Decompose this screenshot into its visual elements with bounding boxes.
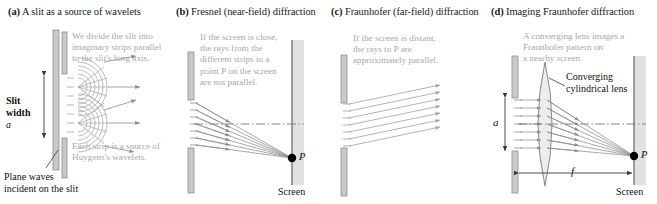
- panel-d-imaging-fraunhofer-diffraction: (d) Imaging Fraunhofer diffraction: [483, 0, 657, 204]
- panel-b-annotation: If the screen is close, the rays from th…: [200, 32, 277, 88]
- screen-band: [634, 56, 646, 185]
- screen-band: [292, 40, 304, 185]
- aperture-symbol-label: a: [493, 117, 499, 129]
- slit-plate-top: [188, 52, 194, 100]
- slit-strip-ticks: [67, 78, 74, 132]
- screen-label: Screen: [616, 186, 643, 198]
- panel-d-annotation: A converging lens images a Fraunhofer pa…: [523, 31, 624, 65]
- barrier-plate-left: [53, 30, 59, 170]
- point-p-marker: [288, 154, 296, 162]
- diffraction-figure: (a) A slit as a source of wavelets: [0, 0, 657, 204]
- wavelet-direction-arrows: [104, 56, 140, 152]
- point-p-label: P: [299, 151, 305, 162]
- slit-plate-bottom: [512, 151, 518, 193]
- fresnel-ray-arrowheads: [196, 103, 230, 150]
- panel-c-graphics: [323, 0, 483, 204]
- point-p-label: P: [641, 149, 647, 160]
- point-p-marker: [630, 152, 638, 160]
- slit-plate-top: [62, 32, 67, 74]
- panel-c-fraunhofer-diffraction: (c) Fraunhofer (far-field) diffraction: [323, 0, 483, 204]
- panel-b-graphics: [168, 0, 323, 204]
- panel-a-slit-source-of-wavelets: (a) A slit as a source of wavelets: [0, 0, 168, 204]
- panel-c-annotation: If the screen is distant, the rays to P …: [353, 33, 438, 67]
- slit-plate-bottom: [188, 148, 194, 193]
- panel-b-fresnel-diffraction: (b) Fresnel (near-field) diffraction: [168, 0, 323, 204]
- slit-plate-top: [341, 55, 347, 103]
- lens-leader-line: [549, 78, 565, 86]
- fraunhofer-parallel-rays: [349, 85, 440, 146]
- slit-plate-top: [512, 56, 518, 98]
- screen-label: Screen: [278, 186, 305, 198]
- panel-a-annotation-huygens: Each strip is a source of Huygens's wave…: [72, 141, 160, 163]
- converging-lens-label: Converging cylindrical lens: [566, 71, 627, 94]
- panel-a-annotation-strips: We divide the slit into imaginary strips…: [72, 31, 161, 65]
- slit-width-label: Slit width: [6, 95, 30, 118]
- slit-width-symbol: a: [6, 119, 11, 131]
- slit-plate-bottom: [341, 148, 347, 196]
- focal-length-symbol-label: f: [571, 166, 574, 178]
- plane-waves-label: Plane waves incident on the slit: [4, 171, 78, 194]
